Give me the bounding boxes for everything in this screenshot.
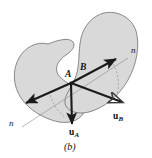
label-body-a: A	[65, 70, 71, 80]
contact-point	[69, 81, 72, 84]
label-normal-left: n	[9, 119, 14, 128]
label-body-b: B	[80, 63, 86, 73]
label-normal-right: n	[131, 46, 136, 55]
label-u-a-subscript: A	[75, 131, 80, 139]
label-u-b-base: u	[113, 111, 118, 121]
body-b-shape	[65, 12, 138, 113]
label-vector-u-b: uB	[113, 112, 123, 123]
contact-kinematics-figure: A B n n uA uB (b)	[0, 0, 152, 158]
figure-caption: (b)	[64, 142, 76, 152]
vector-u-a	[71, 83, 72, 124]
label-vector-u-a: uA	[69, 128, 79, 139]
label-u-a-base: u	[69, 127, 74, 137]
label-u-b-subscript: B	[119, 115, 124, 123]
